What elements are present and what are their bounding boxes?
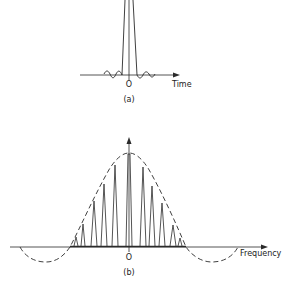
ripples-left [104,71,122,78]
time-axis-arrow-icon [173,73,180,78]
figure-canvas: O Time (a) O Freq [0,0,289,284]
origin-label-a: O [126,80,132,89]
time-label: Time [171,80,192,89]
frequency-label: Frequency [240,249,282,258]
caption-b: (b) [123,268,134,277]
amplitude-axis-arrow-icon [127,137,132,144]
spectral-lines [74,154,182,246]
caption-a: (a) [123,95,134,104]
panel-a: O Time (a) [80,0,192,104]
origin-label-b: O [126,253,132,262]
panel-b: O Frequency (b) [10,137,282,277]
main-lobe [122,0,137,75]
